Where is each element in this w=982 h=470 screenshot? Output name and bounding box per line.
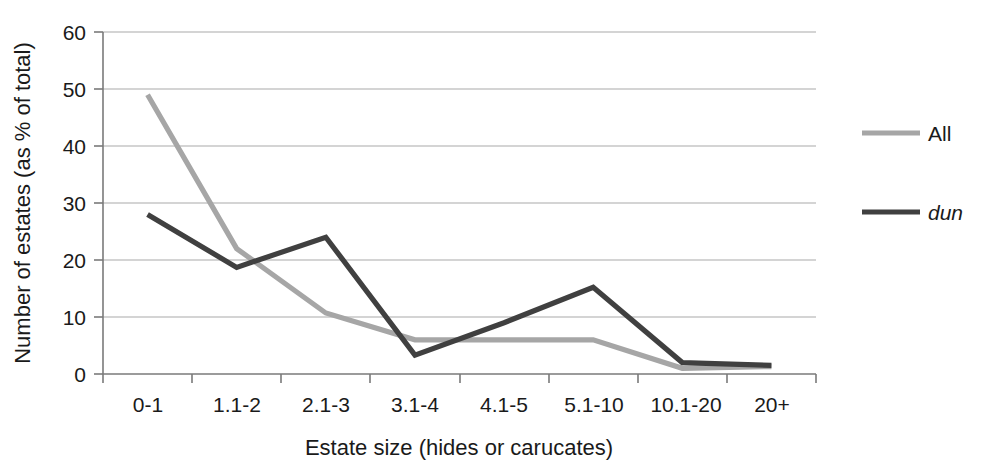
x-tick-label-3: 3.1-4	[391, 393, 439, 416]
y-tick-labels: 60 50 40 30 20 10 0	[63, 21, 86, 386]
y-tickmarks	[94, 32, 103, 374]
y-tick-label-0: 0	[74, 363, 86, 386]
x-tick-label-2: 2.1-3	[302, 393, 350, 416]
series-group	[148, 95, 772, 369]
legend-label-all: All	[928, 122, 951, 145]
legend-label-dun: dun	[928, 201, 963, 224]
y-axis-title: Number of estates (as % of total)	[10, 42, 35, 364]
x-tick-label-6: 10.1-20	[650, 393, 721, 416]
gridlines	[103, 32, 816, 317]
y-tick-label-10: 10	[63, 306, 86, 329]
x-tickmarks	[103, 374, 816, 383]
x-tick-label-1: 1.1-2	[213, 393, 261, 416]
series-line-dun	[148, 214, 772, 365]
y-tick-label-30: 30	[63, 192, 86, 215]
x-tick-labels: 0-1 1.1-2 2.1-3 3.1-4 4.1-5 5.1-10 10.1-…	[133, 393, 790, 416]
chart-legend: All dun	[862, 122, 963, 224]
series-line-all	[148, 95, 772, 369]
chart-figure: 60 50 40 30 20 10 0 0-1 1.1-2 2.1-3 3.1-…	[0, 0, 982, 470]
x-tick-label-5: 5.1-10	[564, 393, 624, 416]
y-tick-label-20: 20	[63, 249, 86, 272]
y-tick-label-40: 40	[63, 135, 86, 158]
y-tick-label-60: 60	[63, 21, 86, 44]
line-chart: 60 50 40 30 20 10 0 0-1 1.1-2 2.1-3 3.1-…	[0, 0, 982, 470]
x-tick-label-7: 20+	[754, 393, 790, 416]
x-axis-title: Estate size (hides or carucates)	[305, 435, 613, 460]
x-tick-label-4: 4.1-5	[480, 393, 528, 416]
x-tick-label-0: 0-1	[133, 393, 163, 416]
y-tick-label-50: 50	[63, 78, 86, 101]
